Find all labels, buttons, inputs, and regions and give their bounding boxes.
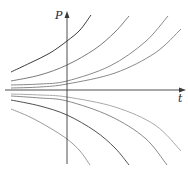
solution-curve-upper-3 <box>11 16 168 85</box>
solution-curve-lower-1 <box>11 94 181 151</box>
y-axis-arrow-icon <box>65 11 70 18</box>
solution-curve-upper-1 <box>11 15 91 72</box>
solution-curve-lower-3 <box>11 100 129 165</box>
solution-curves-plot <box>0 0 188 180</box>
x-axis-label: t <box>178 93 182 104</box>
solution-curve-upper-4 <box>11 29 181 88</box>
y-axis-label: P <box>55 10 62 21</box>
solution-curve-lower-2 <box>11 96 167 165</box>
diagram-canvas: P t <box>0 0 188 180</box>
solution-curve-upper-2 <box>11 16 129 81</box>
solution-curve-lower-4 <box>11 109 90 165</box>
